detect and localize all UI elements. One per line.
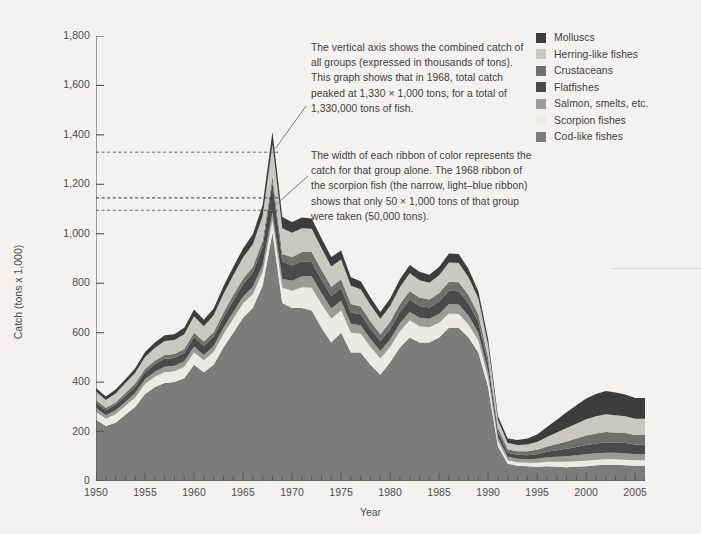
y-axis-tick-label: 200 — [72, 425, 90, 437]
legend-item-label: Crustaceans — [554, 65, 613, 76]
legend-swatch-icon — [536, 66, 546, 76]
x-axis-tick-label: 1975 — [329, 486, 353, 498]
legend-item: Herring-like fishes — [536, 47, 696, 63]
legend-item: Scorpion fishes — [536, 113, 696, 129]
leader-line-total-catch — [275, 106, 306, 148]
x-axis-tick-label: 1995 — [525, 486, 549, 498]
legend-swatch-icon — [536, 33, 546, 43]
legend-item-label: Herring-like fishes — [554, 49, 638, 60]
x-axis-tick-label: 1955 — [133, 486, 157, 498]
legend-item: Crustaceans — [536, 63, 696, 79]
y-axis-tick-label: 1,400 — [63, 128, 90, 140]
y-axis-tick-label: 1,000 — [63, 227, 90, 239]
y-axis-tick-label: 400 — [72, 375, 90, 387]
x-axis-tick-label: 1970 — [280, 486, 304, 498]
x-axis-tick-label: 1985 — [427, 486, 451, 498]
x-axis-tick-label: 1990 — [476, 486, 500, 498]
leader-line-ribbon-width — [276, 176, 308, 204]
legend-item-label: Molluscs — [554, 32, 595, 43]
x-axis-tick-label: 1965 — [231, 486, 255, 498]
y-axis-tick-labels: 1,8001,6001,4001,2001,0008006004002000 — [44, 36, 90, 481]
x-axis-tick-label: 1980 — [378, 486, 402, 498]
legend-item: Flatfishes — [536, 80, 696, 96]
y-axis-title: Catch (tons x 1,000) — [12, 212, 24, 372]
y-axis-tick-label: 1,200 — [63, 177, 90, 189]
y-axis-tick-label: 1,600 — [63, 78, 90, 90]
legend-item: Cod-like fishes — [536, 129, 696, 145]
annotation-total-catch: The vertical axis shows the combined cat… — [311, 40, 535, 116]
x-axis-tick-labels: 1950195519601965197019751980198519901995… — [96, 486, 645, 502]
annotation-ribbon-width: The width of each ribbon of color repres… — [311, 148, 537, 224]
legend-item: Molluscs — [536, 30, 696, 46]
legend-swatch-icon — [536, 99, 546, 109]
legend-item-label: Salmon, smelts, etc. — [554, 98, 649, 109]
x-axis-tick-label: 2000 — [574, 486, 598, 498]
legend-swatch-icon — [536, 49, 546, 59]
legend-item-label: Scorpion fishes — [554, 115, 626, 126]
legend-item-label: Cod-like fishes — [554, 131, 623, 142]
x-axis-tick-label: 1960 — [182, 486, 206, 498]
legend-item-label: Flatfishes — [554, 82, 599, 93]
chart-legend: MolluscsHerring-like fishesCrustaceansFl… — [536, 30, 696, 146]
y-axis-tick-label: 600 — [72, 326, 90, 338]
figure-page: 1,8001,6001,4001,2001,0008006004002000 1… — [0, 0, 701, 534]
legend-swatch-icon — [536, 115, 546, 125]
x-axis-tick-label: 2005 — [623, 486, 647, 498]
y-axis-tick-label: 0 — [84, 474, 90, 486]
x-axis-title: Year — [96, 506, 645, 518]
x-axis-tick-label: 1950 — [84, 486, 108, 498]
y-axis-tick-label: 1,800 — [63, 29, 90, 41]
legend-item: Salmon, smelts, etc. — [536, 96, 696, 112]
legend-swatch-icon — [536, 132, 546, 142]
legend-swatch-icon — [536, 82, 546, 92]
y-axis-tick-label: 800 — [72, 276, 90, 288]
